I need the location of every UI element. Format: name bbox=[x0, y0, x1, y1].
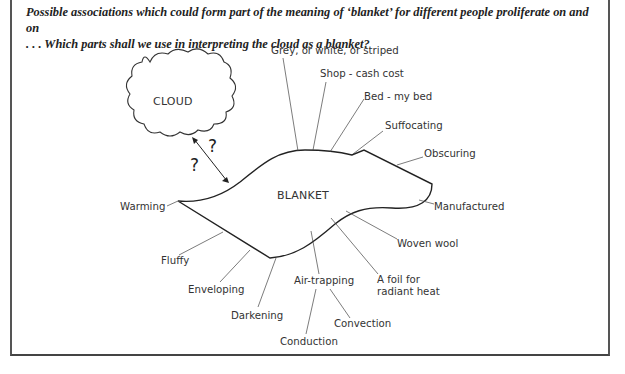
question-mark-1: ? bbox=[208, 136, 217, 156]
association-grey: Grey, or white, or striped bbox=[271, 45, 399, 57]
cloud-label: CLOUD bbox=[153, 96, 193, 108]
cloud-shape bbox=[126, 49, 235, 136]
association-woven-wool: Woven wool bbox=[397, 238, 458, 250]
blanket-shape bbox=[178, 150, 432, 258]
association-bed: Bed - my bed bbox=[364, 91, 432, 103]
association-warming: Warming bbox=[120, 201, 165, 213]
association-suffocating: Suffocating bbox=[385, 120, 443, 132]
question-mark-2: ? bbox=[190, 155, 199, 175]
association-foil-line-1: A foil for bbox=[377, 274, 420, 286]
association-foil-line-2: radiant heat bbox=[377, 286, 440, 298]
blanket-label: BLANKET bbox=[277, 190, 329, 202]
association-conduction: Conduction bbox=[280, 336, 338, 348]
association-fluffy: Fluffy bbox=[161, 255, 189, 267]
association-air-trapping: Air-trapping bbox=[294, 275, 354, 287]
association-manufactured: Manufactured bbox=[434, 201, 505, 213]
association-obscuring: Obscuring bbox=[424, 148, 476, 160]
association-darkening: Darkening bbox=[231, 310, 283, 322]
association-convection: Convection bbox=[334, 318, 391, 330]
association-shop: Shop - cash cost bbox=[320, 68, 404, 80]
association-enveloping: Enveloping bbox=[188, 284, 244, 296]
arrow-head-down-icon bbox=[222, 177, 229, 183]
